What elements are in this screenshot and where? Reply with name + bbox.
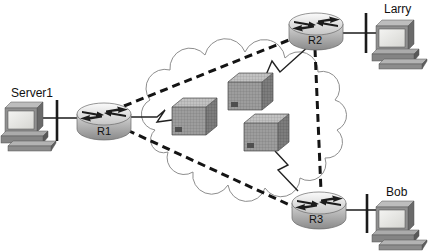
network-diagram: R1 R2 R3 Server1 Larry Bob [0,0,428,252]
network-diagram-svg: R1 R2 R3 Server1 Larry Bob [0,0,428,252]
lan-segment-larry [341,13,378,53]
pc-icon-bob [372,201,427,250]
router-label-r2: R2 [308,34,322,46]
host-label-larry: Larry [384,2,411,16]
router-label-r1: R1 [97,125,111,137]
router-label-r3: R3 [309,213,323,225]
lan-segment-bob [345,194,378,233]
frame-relay-switch-icon-2 [228,73,273,110]
frame-relay-switch-icon-3 [244,114,289,151]
host-label-bob: Bob [386,185,408,199]
pc-icon-larry [372,20,427,69]
frame-relay-switch-icon-1 [172,98,217,135]
pc-icon-server1 [1,102,56,151]
host-label-server1: Server1 [11,86,53,100]
